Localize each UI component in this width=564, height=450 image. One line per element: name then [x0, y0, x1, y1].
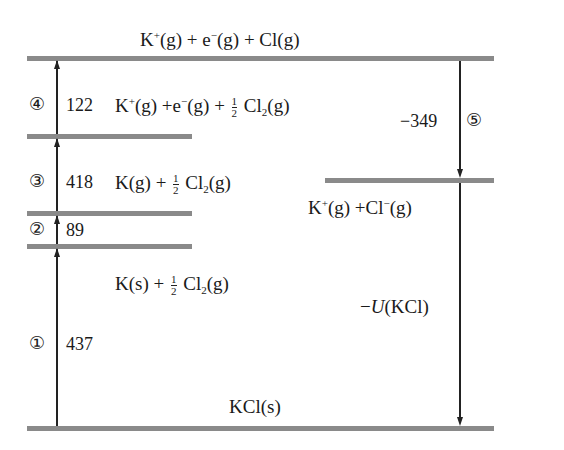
level-1-label: K(s) + 12 Cl2(g): [115, 274, 229, 297]
step-value-4: 122: [66, 96, 93, 114]
step-value-3: 418: [66, 173, 93, 191]
level-ions: [325, 178, 494, 183]
lattice-energy-label: −U(KCl): [360, 297, 429, 316]
level-bottom: [27, 426, 494, 431]
step-value-2: 89: [66, 221, 84, 239]
level-ions-label: K+(g) +Cl−(g): [308, 198, 412, 217]
arrow-down-icon: [457, 417, 463, 426]
arrow-up-icon: [54, 248, 60, 257]
arrow-3-line: [56, 139, 58, 211]
level-top: [27, 56, 494, 61]
step-marker-4: ④: [29, 95, 45, 113]
level-4-label: K+(g) +e−(g) + 12 Cl2(g): [115, 96, 289, 119]
step-marker-3: ③: [29, 172, 45, 190]
arrow-down-icon: [457, 169, 463, 178]
arrow-1-line: [56, 249, 58, 426]
level-3-label: K(g) + 12 Cl2(g): [115, 173, 231, 196]
level-4: [27, 134, 192, 139]
arrow-lattice-line: [459, 183, 461, 417]
level-3: [27, 211, 192, 216]
step-marker-2: ②: [29, 220, 45, 238]
fraction-half: 12: [232, 96, 238, 119]
step-marker-5: ⑤: [466, 111, 482, 129]
arrow-5-line: [459, 61, 461, 169]
arrow-up-icon: [54, 60, 60, 69]
arrow-4-line: [56, 61, 58, 134]
fraction-half: 12: [173, 173, 179, 196]
step-value-1: 437: [66, 335, 93, 353]
arrow-up-icon: [54, 215, 60, 224]
step-marker-1: ①: [29, 334, 45, 352]
arrow-up-icon: [54, 138, 60, 147]
step-value-5: −349: [400, 112, 437, 130]
level-2: [27, 244, 192, 249]
level-top-label: K+(g) + e−(g) + Cl(g): [140, 30, 299, 49]
level-bottom-label: KCl(s): [229, 397, 281, 416]
fraction-half: 12: [171, 274, 177, 297]
